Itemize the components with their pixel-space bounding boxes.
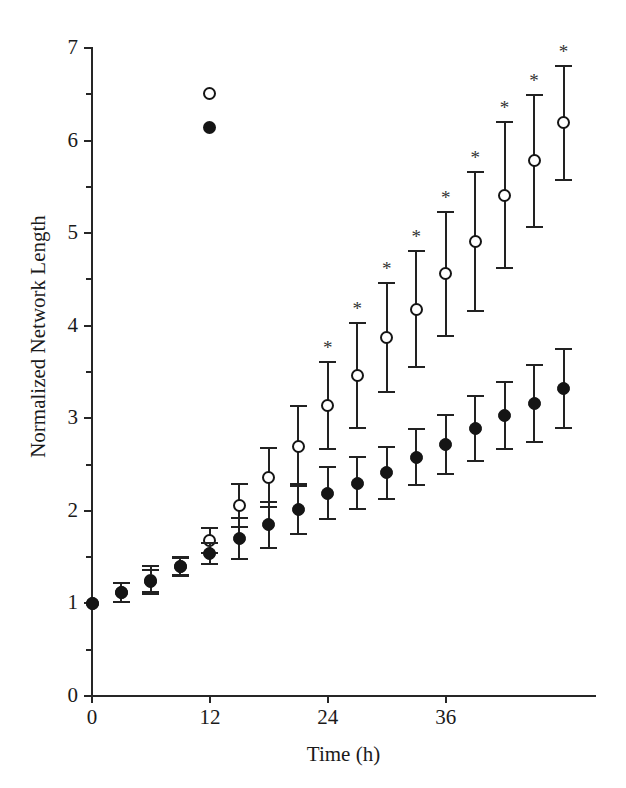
x-axis-title: Time (h) [91,742,596,767]
error-bar-cap [496,267,513,269]
data-point-filled [321,487,334,500]
legend-marker-open [203,87,216,100]
error-bar-cap [526,441,543,443]
data-point-filled [262,518,275,531]
y-axis-title: Normalized Network Length [26,187,51,487]
y-tick [84,47,92,49]
error-bar-cap [290,533,307,535]
error-bar-cap [555,348,572,350]
data-point-filled [498,409,511,422]
x-tick-label: 24 [308,706,348,728]
y-tick [84,510,92,512]
data-point-open [557,116,570,129]
error-bar-cap [437,335,454,337]
error-bar-cap [555,427,572,429]
data-point-filled [144,575,157,588]
error-bar-cap [201,542,218,544]
error-bar-cap [467,171,484,173]
error-bar-cap [319,466,336,468]
error-bar-cap [437,473,454,475]
error-bar-cap [467,460,484,462]
data-point-filled [233,532,246,545]
y-tick-label: 1 [44,592,78,613]
error-bar-cap [290,483,307,485]
error-bar-cap [526,364,543,366]
error-bar-cap [201,527,218,529]
error-bar-cap [142,591,159,593]
error-bar-cap [349,456,366,458]
data-point-open [439,267,452,280]
x-tick [327,695,329,703]
error-bar-cap [260,447,277,449]
error-bar-cap [260,547,277,549]
error-bar-cap [496,381,513,383]
x-tick-label: 12 [190,706,230,728]
error-bar-cap [319,361,336,363]
y-tick [84,140,92,142]
error-bar-cap [142,565,159,567]
y-tick-label: 6 [44,130,78,151]
y-tick-minor [86,186,92,188]
data-point-open [321,399,334,412]
error-bar-cap [113,601,130,603]
error-bar-cap [526,94,543,96]
error-bar-cap [437,211,454,213]
error-bar-cap [408,484,425,486]
data-point-filled [528,397,541,410]
y-tick-minor [86,464,92,466]
error-bar-cap [408,428,425,430]
data-point-open [380,331,393,344]
error-bar-cap [201,563,218,565]
legend-marker-filled [203,121,216,134]
data-point-open [498,189,511,202]
error-bar-cap [290,405,307,407]
data-point-filled [380,466,393,479]
x-tick-label: 36 [426,706,466,728]
significance-asterisk: * [465,148,485,167]
error-bar-cap [378,498,395,500]
significance-asterisk: * [554,42,574,61]
error-bar-cap [319,518,336,520]
error-bar-cap [349,508,366,510]
y-tick-minor [86,649,92,651]
y-tick [84,325,92,327]
y-tick-minor [86,556,92,558]
data-point-open [469,235,482,248]
error-bar-cap [378,282,395,284]
significance-asterisk: * [377,259,397,278]
data-point-filled [410,451,423,464]
data-point-filled [557,382,570,395]
error-bar-cap [319,448,336,450]
x-axis-line [91,695,596,697]
error-bar-cap [113,582,130,584]
chart-figure: 01234567 0122436 Normalized Network Leng… [0,0,626,788]
error-bar-cap [172,574,189,576]
error-bar-cap [260,501,277,503]
data-point-filled [439,438,452,451]
y-tick-minor [86,278,92,280]
data-point-filled [174,560,187,573]
y-tick-label: 7 [44,37,78,58]
significance-asterisk: * [436,188,456,207]
error-bar-cap [467,395,484,397]
error-bar-cap [496,121,513,123]
error-bar-cap [408,366,425,368]
error-bar-cap [349,322,366,324]
error-bar-cap [496,448,513,450]
error-bar-cap [378,391,395,393]
error-bar-cap [172,557,189,559]
significance-asterisk: * [524,71,544,90]
x-tick [91,695,93,703]
significance-asterisk: * [318,338,338,357]
error-bar-cap [142,569,159,571]
y-tick-minor [86,93,92,95]
y-tick-label: 0 [44,685,78,706]
error-bar-cap [526,226,543,228]
y-tick [84,417,92,419]
data-point-open [410,303,423,316]
data-point-open [233,499,246,512]
error-bar-cap [378,446,395,448]
error-bar-cap [437,414,454,416]
significance-asterisk: * [495,98,515,117]
y-tick-minor [86,371,92,373]
